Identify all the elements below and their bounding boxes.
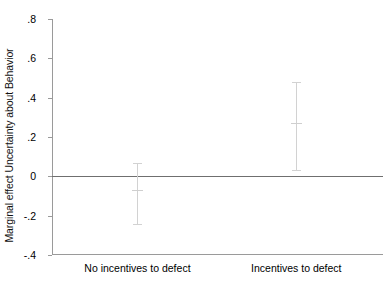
marginal-effects-plot: Marginal effect Uncertainty about Behavi… — [0, 0, 391, 291]
y-tick-label: .2 — [0, 132, 36, 142]
y-tick-mark — [48, 98, 52, 99]
data-point-marker — [291, 123, 302, 124]
plot-area: .8.6.4.20-.2-.4 — [52, 19, 383, 255]
y-tick-mark — [48, 255, 52, 256]
error-bar — [296, 82, 297, 171]
y-tick-label: 0 — [0, 171, 36, 181]
y-axis-title: Marginal effect Uncertainty about Behavi… — [0, 0, 18, 291]
y-tick-label: .8 — [0, 14, 36, 24]
y-tick-label: .4 — [0, 93, 36, 103]
x-tick-label: No incentives to defect — [84, 262, 190, 274]
y-tick-label: -.4 — [0, 250, 36, 260]
error-bar-cap-upper — [292, 82, 301, 83]
y-tick-label: -.2 — [0, 211, 36, 221]
data-point-marker — [132, 190, 143, 191]
x-tick-label: Incentives to defect — [251, 262, 341, 274]
zero-reference-line — [52, 176, 383, 177]
error-bar-cap-lower — [292, 170, 301, 171]
y-axis-line — [52, 19, 53, 255]
y-tick-label: .6 — [0, 53, 36, 63]
y-tick-mark — [48, 137, 52, 138]
error-bar — [137, 163, 138, 224]
y-tick-mark — [48, 58, 52, 59]
x-axis-line — [52, 254, 383, 255]
y-tick-mark — [48, 216, 52, 217]
error-bar-cap-upper — [133, 163, 142, 164]
y-tick-mark — [48, 19, 52, 20]
error-bar-cap-lower — [133, 224, 142, 225]
